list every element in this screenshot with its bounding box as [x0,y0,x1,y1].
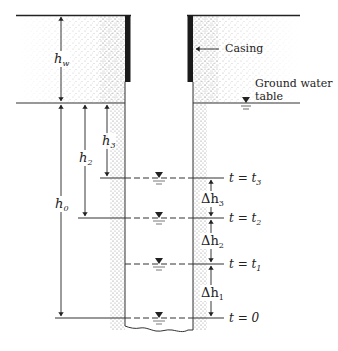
water-level-t0 [125,312,193,324]
t2-label: t = t2 [229,211,261,227]
water-level-t2 [125,212,193,224]
t1-label: t = t1 [229,257,261,273]
borehole-diagram: Casing Ground water table [0,0,338,351]
t3-label: t = t3 [229,171,261,187]
gwt-label-line1: Ground water [255,77,333,90]
gwt-label-line2: table [255,90,283,103]
borehole-bottom [125,326,193,332]
casing-left [125,15,131,82]
casing-right [188,15,194,82]
water-level-t3 [125,172,193,184]
casing-label: Casing [225,42,263,55]
water-level-t1 [125,258,193,270]
t0-label: t = 0 [229,311,260,325]
